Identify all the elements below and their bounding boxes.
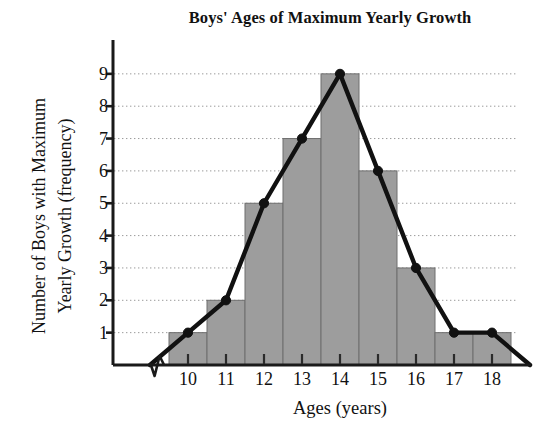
y-tick-label-7: 7 xyxy=(86,130,108,148)
x-tick-label-12: 12 xyxy=(245,370,283,388)
y-tick-label-8: 8 xyxy=(86,97,108,115)
y-tick-label-6: 6 xyxy=(86,162,108,180)
frequency-histogram-figure: Boys' Ages of Maximum Yearly Growth Numb… xyxy=(0,0,544,447)
y-tick-label-4: 4 xyxy=(86,227,108,245)
marker-age-13 xyxy=(297,134,306,143)
x-tick-label-11: 11 xyxy=(207,370,245,388)
marker-age-18 xyxy=(487,328,496,337)
x-tick-label-18: 18 xyxy=(473,370,511,388)
bar-age-12 xyxy=(245,203,283,365)
marker-age-17 xyxy=(449,328,458,337)
y-tick-label-9: 9 xyxy=(86,65,108,83)
x-tick-label-16: 16 xyxy=(397,370,435,388)
y-tick-label-5: 5 xyxy=(86,194,108,212)
y-tick-label-2: 2 xyxy=(86,291,108,309)
marker-age-14 xyxy=(335,69,344,78)
marker-age-10 xyxy=(183,328,192,337)
bar-age-14 xyxy=(321,74,359,365)
x-tick-label-14: 14 xyxy=(321,370,359,388)
x-tick-label-13: 13 xyxy=(283,370,321,388)
bar-age-13 xyxy=(283,139,321,365)
x-tick-label-10: 10 xyxy=(169,370,207,388)
bar-age-16 xyxy=(397,268,435,365)
marker-age-12 xyxy=(259,199,268,208)
y-tick-label-1: 1 xyxy=(86,324,108,342)
marker-age-15 xyxy=(373,166,382,175)
marker-age-16 xyxy=(411,263,420,272)
x-tick-label-15: 15 xyxy=(359,370,397,388)
marker-age-11 xyxy=(221,296,230,305)
x-tick-label-17: 17 xyxy=(435,370,473,388)
y-tick-label-3: 3 xyxy=(86,259,108,277)
histogram-bars xyxy=(169,74,511,365)
